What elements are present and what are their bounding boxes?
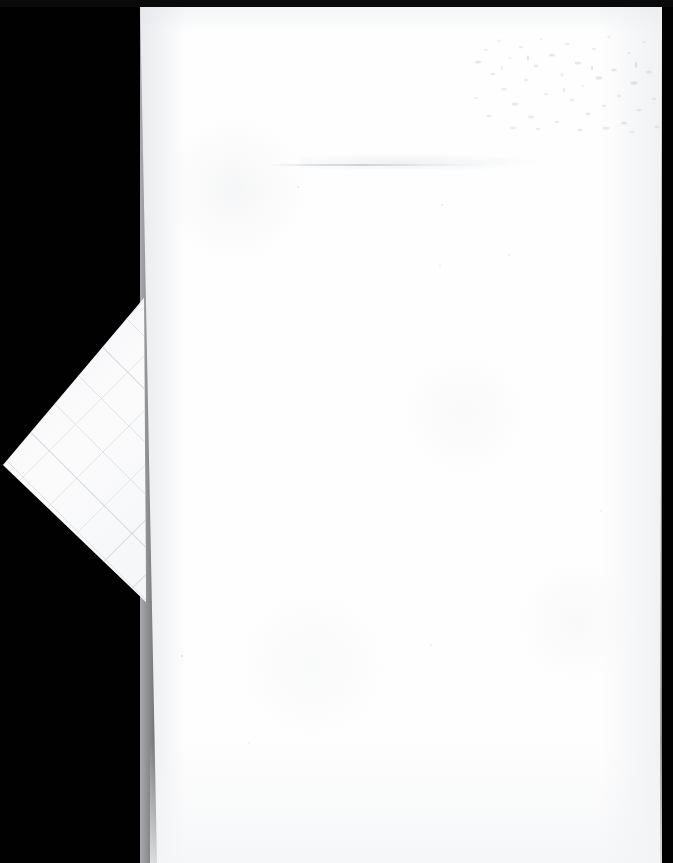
fold-crease-grid	[0, 290, 165, 610]
scanner-top-edge-band	[0, 0, 673, 7]
fold-edge-highlight-upper	[0, 290, 165, 610]
scan-canvas	[0, 0, 673, 863]
paper-sheet	[0, 0, 673, 863]
fold-edge-highlight-lower	[0, 290, 165, 610]
folded-corner-flap	[0, 290, 165, 610]
